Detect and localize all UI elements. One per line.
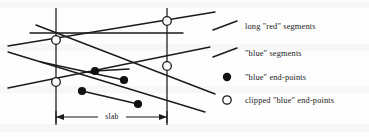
slab-diagram: slab long "red" segments "blue" segments…: [0, 0, 369, 137]
slab-arrowhead-right: [159, 114, 167, 120]
legend-label-blue-segments: "blue" segments: [245, 49, 302, 58]
legend-filled-circle-icon: [223, 73, 231, 81]
blue-endpoint-2: [120, 76, 128, 84]
blue-endpoint-4: [134, 100, 142, 108]
red-segments-group: [8, 12, 215, 112]
slab-label: slab: [105, 112, 118, 121]
legend-open-circle-icon: [223, 96, 231, 104]
legend-entry-clipped-endpoints: clipped "blue" end-points: [223, 96, 334, 105]
red-segment-rising: [8, 12, 215, 46]
clipped-endpoint-left-upper: [52, 36, 61, 45]
legend-label-clipped-endpoints: clipped "blue" end-points: [245, 96, 334, 105]
clipped-endpoint-right-upper: [163, 17, 172, 26]
clipped-endpoint-left-lower: [52, 78, 61, 87]
blue-segment-middle: [41, 62, 124, 80]
legend-label-blue-endpoints: "blue" end-points: [245, 73, 306, 82]
blue-endpoint-1: [91, 67, 99, 75]
legend-line-segment-icon: [213, 21, 237, 30]
legend-entry-red-segments: long "red" segments: [213, 21, 316, 31]
legend-label-red-segments: long "red" segments: [245, 22, 316, 31]
legend-entry-blue-endpoints: "blue" end-points: [223, 73, 306, 82]
slab-arrowhead-left: [56, 114, 64, 120]
clipped-endpoint-right-lower: [163, 62, 172, 71]
blue-endpoint-3: [78, 87, 86, 95]
